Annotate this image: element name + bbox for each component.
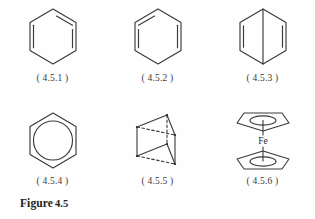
structure-label-4-5-4: ( 4.5.4 ) xyxy=(37,176,69,186)
structure-cell-4-5-1: ( 4.5.1 ) xyxy=(0,6,105,83)
iron-atom-label: Fe xyxy=(258,136,268,146)
figure-caption-word: Figure xyxy=(20,197,53,209)
structure-cell-4-5-5: ( 4.5.5 ) xyxy=(105,110,210,186)
aromatic-circle-benzene-svg xyxy=(25,110,81,172)
kekule-benzene-b-diagram xyxy=(122,6,194,68)
prismane-diagram xyxy=(122,110,194,172)
figure-caption: Figure4.5 xyxy=(20,197,68,209)
prismane-svg xyxy=(129,110,187,172)
structure-label-4-5-3: ( 4.5.3 ) xyxy=(247,73,279,83)
kekule-benzene-a-svg xyxy=(25,6,81,68)
structure-label-4-5-6: ( 4.5.6 ) xyxy=(247,176,279,186)
structure-label-4-5-1: ( 4.5.1 ) xyxy=(37,73,69,83)
figure-sheet: ( 4.5.1 ) ( 4.5.2 ) xyxy=(0,0,315,219)
structure-label-4-5-5: ( 4.5.5 ) xyxy=(142,176,174,186)
kekule-benzene-b-svg xyxy=(130,6,186,68)
ferrocene-svg: Fe xyxy=(232,109,294,173)
structure-cell-4-5-2: ( 4.5.2 ) xyxy=(105,6,210,83)
dewar-benzene-svg xyxy=(235,6,291,68)
figure-caption-number: 4.5 xyxy=(55,198,68,209)
dewar-benzene-diagram xyxy=(227,6,299,68)
ferrocene-diagram: Fe xyxy=(227,110,299,172)
kekule-benzene-a-diagram xyxy=(17,6,89,68)
aromatic-circle-benzene-diagram xyxy=(17,110,89,172)
structure-cell-4-5-6: Fe ( 4.5.6 ) xyxy=(210,110,315,186)
structure-cell-4-5-3: ( 4.5.3 ) xyxy=(210,6,315,83)
structure-label-4-5-2: ( 4.5.2 ) xyxy=(142,73,174,83)
aromatic-circle xyxy=(33,121,72,160)
structure-cell-4-5-4: ( 4.5.4 ) xyxy=(0,110,105,186)
